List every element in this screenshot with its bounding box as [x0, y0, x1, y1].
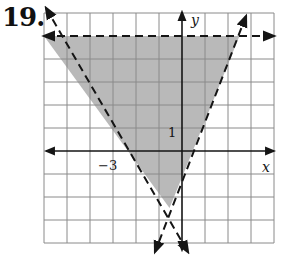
tick-label-y-1: 1: [168, 125, 176, 140]
shaded-region: [44, 36, 240, 208]
x-axis-label: x: [262, 159, 270, 175]
coordinate-graph: y x −3 1: [0, 0, 283, 255]
y-axis-label: y: [190, 12, 200, 28]
tick-label-x-minus3: −3: [98, 158, 117, 173]
